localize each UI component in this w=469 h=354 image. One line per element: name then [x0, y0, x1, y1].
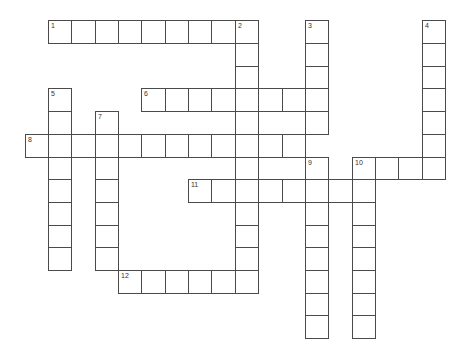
- crossword-cell[interactable]: [141, 134, 166, 158]
- crossword-cell[interactable]: [258, 134, 283, 158]
- crossword-cell[interactable]: [398, 157, 423, 180]
- crossword-cell[interactable]: [422, 66, 446, 89]
- crossword-cell[interactable]: [282, 134, 306, 158]
- crossword-cell[interactable]: 11: [188, 179, 212, 203]
- crossword-cell[interactable]: 12: [118, 270, 142, 294]
- crossword-cell[interactable]: [235, 202, 259, 226]
- crossword-cell[interactable]: [375, 157, 399, 180]
- crossword-cell[interactable]: [235, 111, 259, 135]
- crossword-cell[interactable]: [305, 88, 329, 112]
- crossword-cell[interactable]: [422, 88, 446, 112]
- crossword-cell[interactable]: [48, 134, 72, 158]
- crossword-cell[interactable]: 8: [25, 134, 49, 158]
- crossword-cell[interactable]: [305, 179, 329, 203]
- crossword-cell[interactable]: [305, 202, 329, 226]
- crossword-cell[interactable]: [235, 157, 259, 180]
- crossword-grid: 123456789101112: [0, 0, 469, 354]
- crossword-cell[interactable]: [211, 134, 236, 158]
- crossword-cell[interactable]: [305, 43, 329, 67]
- crossword-cell[interactable]: [235, 225, 259, 248]
- crossword-cell[interactable]: [235, 66, 259, 89]
- crossword-cell[interactable]: [95, 20, 119, 44]
- crossword-cell[interactable]: [71, 20, 96, 44]
- crossword-cell[interactable]: [95, 225, 119, 248]
- crossword-cell[interactable]: 7: [95, 111, 119, 135]
- clue-number: 10: [355, 159, 363, 166]
- crossword-cell[interactable]: [235, 88, 259, 112]
- crossword-cell[interactable]: [328, 179, 353, 203]
- crossword-cell[interactable]: [235, 134, 259, 158]
- crossword-cell[interactable]: [165, 134, 189, 158]
- crossword-cell[interactable]: [235, 43, 259, 67]
- crossword-cell[interactable]: [141, 20, 166, 44]
- crossword-cell[interactable]: [95, 134, 119, 158]
- crossword-cell[interactable]: [48, 202, 72, 226]
- crossword-cell[interactable]: [48, 247, 72, 271]
- crossword-cell[interactable]: [95, 247, 119, 271]
- crossword-cell[interactable]: [235, 247, 259, 271]
- crossword-cell[interactable]: [352, 293, 376, 316]
- crossword-cell[interactable]: [352, 270, 376, 294]
- crossword-cell[interactable]: [305, 293, 329, 316]
- crossword-cell[interactable]: 5: [48, 88, 72, 112]
- crossword-cell[interactable]: [118, 134, 142, 158]
- clue-number: 6: [144, 90, 148, 97]
- crossword-cell[interactable]: 6: [141, 88, 166, 112]
- crossword-cell[interactable]: [422, 157, 446, 180]
- clue-number: 12: [121, 272, 129, 279]
- clue-number: 2: [238, 22, 242, 29]
- crossword-cell[interactable]: [48, 111, 72, 135]
- crossword-cell[interactable]: [211, 179, 236, 203]
- crossword-cell[interactable]: [188, 88, 212, 112]
- crossword-cell[interactable]: [352, 179, 376, 203]
- crossword-cell[interactable]: [211, 270, 236, 294]
- crossword-cell[interactable]: [165, 20, 189, 44]
- crossword-cell[interactable]: [305, 225, 329, 248]
- clue-number: 7: [98, 113, 102, 120]
- crossword-cell[interactable]: [95, 157, 119, 180]
- clue-number: 5: [51, 90, 55, 97]
- crossword-cell[interactable]: [165, 88, 189, 112]
- crossword-cell[interactable]: [305, 111, 329, 135]
- crossword-cell[interactable]: 2: [235, 20, 259, 44]
- crossword-cell[interactable]: [305, 270, 329, 294]
- crossword-cell[interactable]: 3: [305, 20, 329, 44]
- crossword-cell[interactable]: [352, 315, 376, 339]
- crossword-cell[interactable]: [282, 88, 306, 112]
- crossword-cell[interactable]: [258, 88, 283, 112]
- crossword-cell[interactable]: [95, 202, 119, 226]
- clue-number: 11: [191, 181, 198, 188]
- crossword-cell[interactable]: [188, 270, 212, 294]
- crossword-cell[interactable]: [235, 179, 259, 203]
- crossword-cell[interactable]: [48, 179, 72, 203]
- crossword-cell[interactable]: 4: [422, 20, 446, 44]
- crossword-cell[interactable]: [48, 225, 72, 248]
- crossword-cell[interactable]: [352, 202, 376, 226]
- crossword-cell[interactable]: [48, 157, 72, 180]
- crossword-cell[interactable]: [118, 20, 142, 44]
- crossword-cell[interactable]: [211, 88, 236, 112]
- crossword-cell[interactable]: [235, 270, 259, 294]
- clue-number: 1: [51, 22, 55, 29]
- crossword-cell[interactable]: [258, 179, 283, 203]
- crossword-cell[interactable]: [282, 179, 306, 203]
- crossword-cell[interactable]: 1: [48, 20, 72, 44]
- crossword-cell[interactable]: [352, 247, 376, 271]
- crossword-cell[interactable]: [188, 20, 212, 44]
- crossword-cell[interactable]: [165, 270, 189, 294]
- crossword-cell[interactable]: [422, 43, 446, 67]
- crossword-cell[interactable]: [422, 134, 446, 158]
- crossword-cell[interactable]: [422, 111, 446, 135]
- crossword-cell[interactable]: [305, 247, 329, 271]
- crossword-cell[interactable]: [188, 134, 212, 158]
- crossword-cell[interactable]: [71, 134, 96, 158]
- crossword-cell[interactable]: 10: [352, 157, 376, 180]
- crossword-cell[interactable]: 9: [305, 157, 329, 180]
- crossword-cell[interactable]: [352, 225, 376, 248]
- crossword-cell[interactable]: [95, 179, 119, 203]
- crossword-cell[interactable]: [305, 66, 329, 89]
- crossword-cell[interactable]: [141, 270, 166, 294]
- crossword-cell[interactable]: [211, 20, 236, 44]
- clue-number: 3: [308, 22, 312, 29]
- crossword-cell[interactable]: [305, 315, 329, 339]
